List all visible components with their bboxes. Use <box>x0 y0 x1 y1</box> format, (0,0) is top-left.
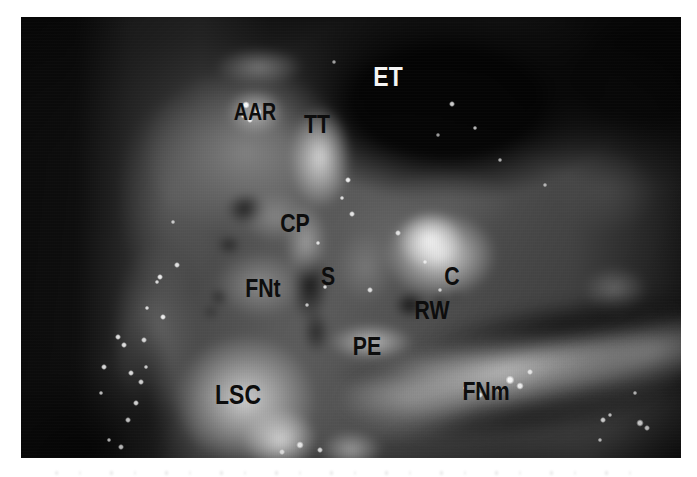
anatomy-label-fnt: FNt <box>245 276 280 301</box>
anatomy-label-pe: PE <box>353 334 381 359</box>
anatomy-label-aar: AAR <box>234 101 276 124</box>
cropped-caption-remnant <box>55 471 645 475</box>
anatomy-label-cp: CP <box>280 211 310 236</box>
anatomy-label-lsc: LSC <box>215 382 261 409</box>
anatomy-label-rw: RW <box>414 298 449 323</box>
ear-dissection-photo: ET AAR TT CP FNt S C RW PE LSC FNm <box>21 17 681 458</box>
anatomy-label-fnm: FNm <box>462 379 509 404</box>
anatomy-label-tt: TT <box>304 112 330 137</box>
anatomy-label-et: ET <box>373 64 402 91</box>
anatomy-label-s: S <box>321 264 335 289</box>
vignette-overlay <box>21 17 681 458</box>
anatomy-label-c: C <box>444 264 459 289</box>
figure-page: ET AAR TT CP FNt S C RW PE LSC FNm <box>0 0 697 477</box>
